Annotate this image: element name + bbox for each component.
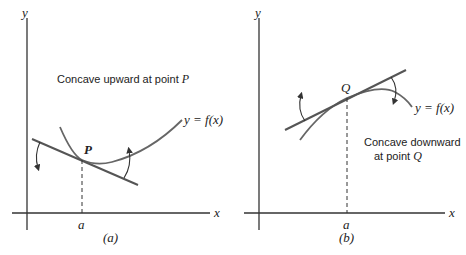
function-curve	[60, 120, 182, 164]
x-axis-label: x	[213, 205, 220, 220]
rotation-arrow-right-icon	[391, 77, 396, 102]
y-axis-label: y	[20, 5, 28, 20]
panel-a: y x Concave upward at point P P y = f(x)…	[12, 5, 223, 245]
rotation-arrow-left-icon	[36, 142, 40, 168]
x-axis-label: x	[448, 205, 455, 220]
y-axis-label: y	[253, 5, 261, 20]
curve-label: y = f(x)	[182, 112, 223, 127]
rotation-arrow-right-icon	[124, 150, 130, 178]
caption-a: (a)	[103, 230, 118, 245]
curve-label: y = f(x)	[413, 100, 454, 115]
concave-down-description-line1: Concave downward	[364, 136, 461, 148]
point-label-q: Q	[341, 80, 351, 95]
concavity-diagram: y x Concave upward at point P P y = f(x)…	[0, 0, 466, 255]
caption-b: (b)	[339, 230, 354, 245]
point-label-p: P	[84, 142, 93, 157]
tangent-line	[285, 70, 406, 130]
concave-up-description: Concave upward at point P	[57, 72, 190, 86]
panel-b: y x Q y = f(x) Concave downward at point…	[244, 5, 461, 245]
concave-down-description-line2: at point Q	[374, 149, 422, 163]
tick-label-a: a	[78, 217, 85, 232]
rotation-arrow-left-icon	[300, 95, 305, 121]
